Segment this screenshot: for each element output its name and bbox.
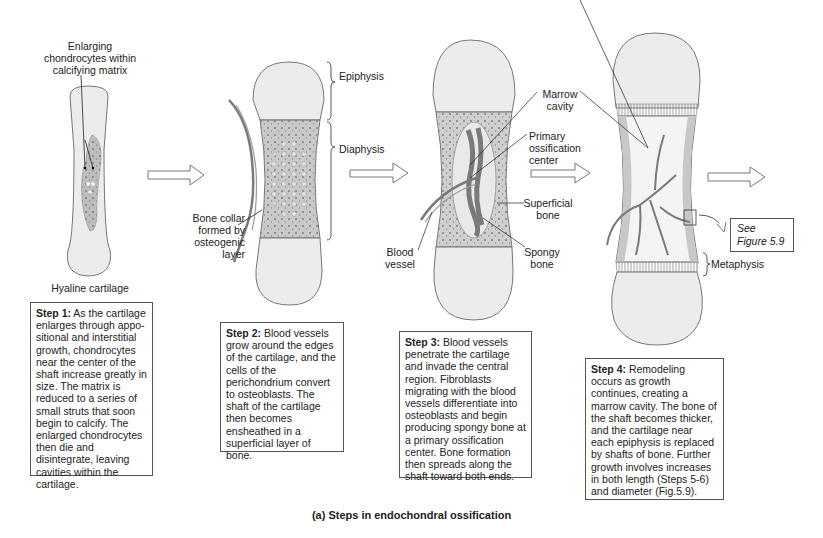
step-3-box: Step 3: Blood vessels penetrate the cart…	[399, 331, 532, 478]
label-line: cavity	[535, 100, 585, 112]
stage3-bone	[418, 40, 537, 320]
step-3-text: Blood vessels penetrate the cartilage an…	[405, 336, 526, 482]
see-figure-box[interactable]: See Figure 5.9	[730, 218, 794, 252]
step-2-text: Blood vessels grow around the edges of t…	[226, 327, 336, 461]
step-4-box: Step 4: Remodeling occurs as growth cont…	[585, 358, 724, 500]
label-line: Figure 5.9	[737, 235, 787, 248]
label-line: Marrow	[535, 88, 585, 100]
label-line: Blood	[380, 246, 420, 258]
step-3-title: Step 3:	[405, 336, 440, 348]
label-line: chondrocytes within	[40, 52, 140, 64]
step-1-title: Step 1:	[36, 307, 71, 319]
arrow-4-icon	[708, 167, 765, 187]
figure-caption: (a) Steps in endochondral ossification	[0, 509, 823, 521]
step-1-text: As the cartilage enlarges through appo-s…	[36, 307, 147, 490]
step-4-title: Step 4:	[591, 363, 626, 375]
arrow-1-icon	[148, 165, 204, 185]
bone-collar-label: Bone collar formed by osteogenic layer	[185, 212, 245, 260]
label-line: calcifying matrix	[40, 64, 140, 76]
enlarging-chondrocytes-label: Enlarging chondrocytes within calcifying…	[40, 40, 140, 76]
label-line: Superficial	[520, 197, 576, 209]
arrow-2-icon	[350, 163, 408, 183]
spongy-bone-label: Spongy bone	[522, 246, 562, 270]
step-2-title: Step 2:	[226, 327, 261, 339]
label-line: Primary	[529, 130, 581, 142]
metaphysis-label: Metaphysis	[711, 258, 764, 270]
label-line: vessel	[380, 258, 420, 270]
label-line: bone	[522, 258, 562, 270]
superficial-bone-label: Superficial bone	[520, 197, 576, 221]
label-line: See	[737, 222, 787, 235]
primary-ossification-center-label: Primary ossification center	[529, 130, 581, 166]
stage4-bone	[580, 0, 726, 345]
arrow-3-icon	[531, 163, 590, 183]
label-line: layer	[185, 248, 245, 260]
stage2-bone	[229, 62, 335, 305]
label-line: formed by	[185, 224, 245, 236]
stage1-cartilage	[67, 75, 110, 276]
label-line: Bone collar	[185, 212, 245, 224]
step-1-box: Step 1: As the cartilage enlarges throug…	[30, 302, 153, 476]
label-line: center	[529, 154, 581, 166]
epiphysis-label: Epiphysis	[339, 70, 384, 82]
step-4-text: Remodeling occurs as growth continues, c…	[591, 363, 717, 497]
diaphysis-label: Diaphysis	[339, 143, 385, 155]
step-2-box: Step 2: Blood vessels grow around the ed…	[220, 322, 344, 452]
label-line: Enlarging	[40, 40, 140, 52]
label-line: Spongy	[522, 246, 562, 258]
marrow-cavity-label: Marrow cavity	[535, 88, 585, 112]
label-line: bone	[520, 209, 576, 221]
hyaline-cartilage-label: Hyaline cartilage	[40, 282, 140, 294]
blood-vessel-label: Blood vessel	[380, 246, 420, 270]
label-line: ossification	[529, 142, 581, 154]
label-line: osteogenic	[185, 236, 245, 248]
